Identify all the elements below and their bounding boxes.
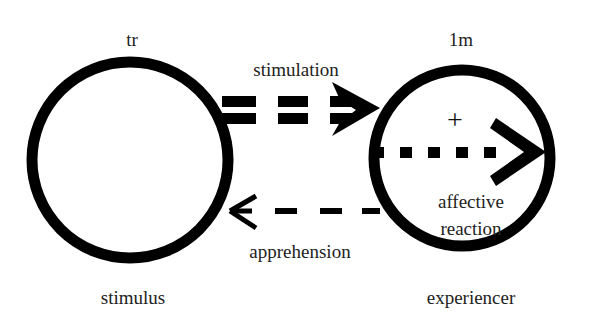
stimulation-arrowhead-icon xyxy=(332,82,380,136)
apprehension-label: apprehension xyxy=(249,242,350,261)
reaction-label: reaction xyxy=(440,219,501,238)
plus-symbol: + xyxy=(447,106,463,134)
experiencer-bottom-label: experiencer xyxy=(427,288,516,307)
experiencer-top-label: 1m xyxy=(449,30,473,49)
stimulation-arrow xyxy=(222,82,380,136)
stimulus-top-label: tr xyxy=(126,30,138,49)
diagram-canvas xyxy=(0,0,602,326)
stimulus-circle xyxy=(32,62,228,258)
stimulation-label: stimulation xyxy=(253,60,339,79)
apprehension-arrow xyxy=(230,196,380,228)
affective-arrowhead-icon xyxy=(490,118,546,186)
stimulus-bottom-label: stimulus xyxy=(101,288,165,307)
affective-label: affective xyxy=(438,192,504,211)
